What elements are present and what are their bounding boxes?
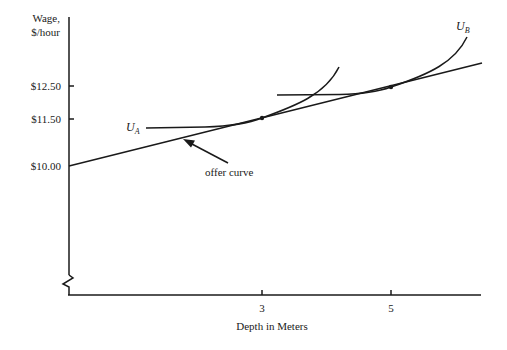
y-axis — [63, 17, 74, 295]
y-axis-title-line-1: Wage, — [32, 12, 60, 24]
offer-curve-annotation: offer curve — [205, 166, 253, 178]
indifference-curve-ub — [277, 37, 467, 95]
y-tick-label-1000: $10.00 — [31, 160, 62, 172]
offer-curve-line — [69, 63, 482, 166]
tangency-point-ua — [260, 116, 264, 120]
x-tick-label-3: 3 — [259, 302, 265, 314]
chart: Wage, $/hour $12.50 $11.50 $10.00 3 5 De… — [0, 0, 507, 350]
label-ub: UB — [456, 19, 470, 35]
label-ua: UA — [126, 120, 140, 136]
y-tick-label-1250: $12.50 — [31, 80, 62, 92]
y-tick-label-1150: $11.50 — [31, 113, 61, 125]
x-axis — [68, 290, 481, 295]
y-axis-title-line-2: $/hour — [31, 26, 60, 38]
tangency-point-ub — [389, 85, 393, 89]
x-axis-title: Depth in Meters — [236, 320, 307, 332]
x-tick-label-5: 5 — [388, 302, 394, 314]
indifference-curve-ua — [146, 67, 339, 128]
offer-curve-arrow-icon — [183, 139, 228, 163]
